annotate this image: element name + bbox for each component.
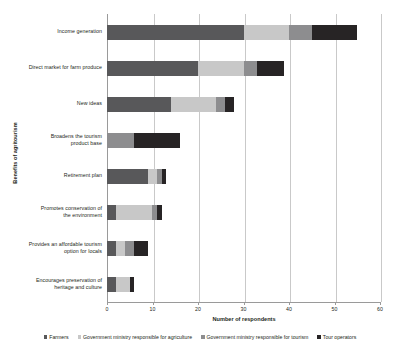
bar-segment[interactable] <box>107 97 171 112</box>
legend-swatch-icon <box>78 335 82 339</box>
tick-mark-50 <box>335 302 336 305</box>
bar-segment[interactable] <box>125 241 134 256</box>
legend-item[interactable]: Tour operators <box>317 334 356 340</box>
legend-swatch-icon <box>317 335 321 339</box>
bar-row[interactable] <box>107 205 162 220</box>
legend-swatch-icon <box>201 335 205 339</box>
tick-label-0: 0 <box>95 306 119 312</box>
legend-label: Government ministry responsible for tour… <box>207 334 309 340</box>
category-label: Direct market for farm produce <box>0 64 102 71</box>
tick-label-60: 60 <box>368 306 392 312</box>
tick-mark-20 <box>198 302 199 305</box>
category-label-line: option for locals <box>0 248 102 255</box>
legend-item[interactable]: Government ministry responsible for agri… <box>78 334 192 340</box>
bar-segment[interactable] <box>107 241 116 256</box>
bar-segment[interactable] <box>134 241 148 256</box>
legend-item[interactable]: Government ministry responsible for tour… <box>201 334 308 340</box>
bar-segment[interactable] <box>107 169 148 184</box>
bar-segment[interactable] <box>107 133 134 148</box>
bar-segment[interactable] <box>116 205 152 220</box>
bar-segment[interactable] <box>157 205 162 220</box>
tick-mark-40 <box>289 302 290 305</box>
bar-segment[interactable] <box>107 277 116 292</box>
bar-segment[interactable] <box>244 61 258 76</box>
bar-segment[interactable] <box>216 97 225 112</box>
bar-segment[interactable] <box>107 25 244 40</box>
bar-segment[interactable] <box>116 241 125 256</box>
bar-segment[interactable] <box>134 133 180 148</box>
bar-segment[interactable] <box>116 277 130 292</box>
legend-label: Tour operators <box>323 334 356 340</box>
bar-segment[interactable] <box>312 25 358 40</box>
tick-mark-0 <box>107 302 108 305</box>
bar-segment[interactable] <box>198 61 244 76</box>
legend-label: Government ministry responsible for agri… <box>83 334 192 340</box>
bar-segment[interactable] <box>244 25 290 40</box>
chart-legend: FarmersGovernment ministry responsible f… <box>0 334 400 340</box>
bar-row[interactable] <box>107 133 180 148</box>
category-label-line: the environment <box>0 212 102 219</box>
bar-row[interactable] <box>107 25 357 40</box>
category-label: Income generation <box>0 28 102 35</box>
bar-row[interactable] <box>107 97 234 112</box>
bar-segment[interactable] <box>162 169 167 184</box>
bar-row[interactable] <box>107 61 284 76</box>
legend-label: Farmers <box>49 334 68 340</box>
category-label-line: Provides an affordable tourism <box>0 241 102 248</box>
bar-row[interactable] <box>107 241 148 256</box>
bar-segment[interactable] <box>107 61 198 76</box>
category-label: Provides an affordable tourismoption for… <box>0 241 102 255</box>
tick-mark-60 <box>380 302 381 305</box>
bar-segment[interactable] <box>257 61 284 76</box>
bar-row[interactable] <box>107 277 134 292</box>
category-label-line: Direct market for farm produce <box>0 64 102 71</box>
tick-label-50: 50 <box>323 306 347 312</box>
tick-label-20: 20 <box>186 306 210 312</box>
legend-swatch-icon <box>44 335 48 339</box>
tick-mark-10 <box>153 302 154 305</box>
legend-item[interactable]: Farmers <box>44 334 69 340</box>
tick-label-40: 40 <box>277 306 301 312</box>
category-label-line: Encourages preservation of <box>0 277 102 284</box>
tick-label-10: 10 <box>141 306 165 312</box>
bar-row[interactable] <box>107 169 166 184</box>
category-label-line: heritage and culture <box>0 284 102 291</box>
stacked-bar-chart: Income generationDirect market for farm … <box>0 0 400 356</box>
tick-mark-30 <box>244 302 245 305</box>
bar-segment[interactable] <box>107 205 116 220</box>
bar-segment[interactable] <box>289 25 312 40</box>
category-label: Encourages preservation ofheritage and c… <box>0 277 102 291</box>
bar-segment[interactable] <box>148 169 157 184</box>
tick-label-30: 30 <box>232 306 256 312</box>
bar-segment[interactable] <box>171 97 217 112</box>
category-label-line: Income generation <box>0 28 102 35</box>
x-axis-title: Number of respondents <box>107 316 381 322</box>
y-axis-title: Benefits of agritourism <box>12 98 18 208</box>
bar-segment[interactable] <box>225 97 234 112</box>
bar-segment[interactable] <box>130 277 135 292</box>
